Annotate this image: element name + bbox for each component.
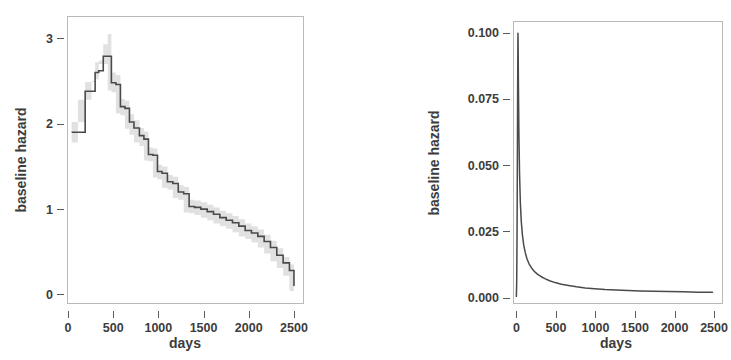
right-chart-svg: 0.0000.0250.0500.0750.100 05001000150020… [366, 0, 731, 360]
y-tick-label: 0.075 [468, 92, 499, 106]
chart-panel-right: 0.0000.0250.0500.0750.100 05001000150020… [366, 0, 731, 360]
y-axis-ticks-left: 0123 [46, 32, 64, 302]
x-axis-ticks-left: 05001000150020002500 [65, 311, 308, 335]
y-tick-label: 0.000 [468, 291, 499, 305]
baseline-hazard-step-curve [72, 56, 294, 286]
x-tick-label: 1500 [621, 321, 649, 335]
y-tick-label: 3 [46, 32, 53, 46]
x-tick-label: 2000 [661, 321, 689, 335]
x-tick-label: 2500 [280, 321, 308, 335]
y-tick-label: 0.050 [468, 159, 499, 173]
x-tick-label: 0 [513, 321, 520, 335]
y-tick-label: 0.100 [468, 26, 499, 40]
y-tick-label: 0 [46, 288, 53, 302]
x-axis-label-left: days [169, 335, 201, 351]
x-tick-label: 2500 [700, 321, 728, 335]
x-tick-label: 500 [103, 321, 124, 335]
x-axis-label-right: days [600, 335, 632, 351]
x-tick-label: 1000 [144, 321, 172, 335]
x-tick-label: 1500 [190, 321, 218, 335]
x-axis-ticks-right: 05001000150020002500 [513, 311, 728, 335]
x-tick-label: 2000 [235, 321, 263, 335]
y-axis-label-right: baseline hazard [426, 110, 442, 215]
y-axis-label-left: baseline hazard [13, 107, 29, 212]
confidence-band-left [72, 34, 294, 291]
y-tick-label: 0.025 [468, 225, 499, 239]
figure-two-panel-baseline-hazard: 0123 05001000150020002500 days baseline … [0, 0, 731, 360]
x-tick-label: 500 [545, 321, 566, 335]
baseline-hazard-smooth-curve [516, 33, 712, 296]
y-tick-label: 2 [46, 117, 53, 131]
plot-frame-right [514, 22, 723, 304]
x-tick-label: 1000 [582, 321, 610, 335]
x-tick-label: 0 [65, 321, 72, 335]
y-axis-ticks-right: 0.0000.0250.0500.0750.100 [468, 26, 510, 305]
chart-panel-left: 0123 05001000150020002500 days baseline … [0, 0, 366, 360]
left-chart-svg: 0123 05001000150020002500 days baseline … [0, 0, 366, 360]
y-tick-label: 1 [46, 203, 53, 217]
